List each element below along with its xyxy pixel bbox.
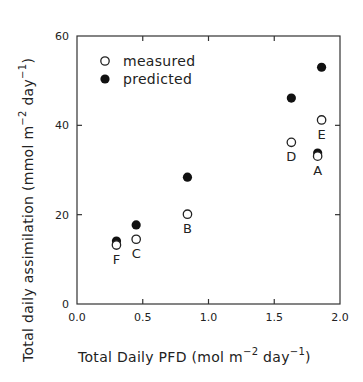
x-axis-title: Total Daily PFD (mol m−2 day−1): [77, 346, 311, 365]
point-measured-F: [112, 241, 120, 249]
y-tick-label: 0: [62, 298, 69, 311]
x-tick-label: 2.0: [331, 311, 349, 324]
x-axis-title-text: Total Daily PFD (mol m: [77, 349, 243, 365]
x-axis-title-end: ): [305, 349, 311, 365]
legend-label-measured: measured: [123, 53, 195, 69]
y-tick-label: 60: [55, 30, 69, 43]
y-axis-title-sup1: −2: [17, 110, 28, 125]
scatter-chart: 0.00.51.01.52.00204060 ABCDEF measured p…: [0, 0, 363, 382]
legend-marker-measured: [101, 57, 109, 65]
point-label-A: A: [313, 163, 322, 178]
point-label-D: D: [286, 149, 296, 164]
x-tick-label: 1.0: [200, 311, 218, 324]
x-axis-title-sup2: −1: [290, 346, 305, 357]
y-tick-label: 40: [55, 119, 69, 132]
point-label-B: B: [183, 221, 192, 236]
tick-labels: 0.00.51.01.52.00204060: [55, 30, 349, 324]
y-axis-title: Total daily assimilation (mmol m−2 day−1…: [17, 58, 36, 363]
x-tick-label: 1.5: [266, 311, 284, 324]
point-labels: ABCDEF: [113, 127, 326, 267]
point-label-E: E: [317, 127, 325, 142]
point-predicted-C: [132, 220, 141, 229]
x-tick-label: 0.0: [68, 311, 86, 324]
legend-label-predicted: predicted: [123, 71, 192, 87]
y-axis-title-mid: day: [20, 79, 36, 110]
x-axis-title-mid: day: [258, 349, 289, 365]
point-label-F: F: [113, 252, 120, 267]
point-measured-E: [317, 116, 325, 124]
point-label-C: C: [132, 246, 141, 261]
y-axis-title-end: ): [20, 58, 36, 64]
x-axis-title-sup1: −2: [243, 346, 258, 357]
y-tick-label: 20: [55, 209, 69, 222]
point-measured-A: [313, 152, 321, 160]
point-predicted-E: [317, 63, 326, 72]
point-predicted-B: [183, 173, 192, 182]
point-measured-B: [183, 210, 191, 218]
legend: measured predicted: [100, 53, 195, 87]
y-axis-title-text: Total daily assimilation (mmol m: [20, 126, 36, 363]
y-axis-title-sup2: −1: [17, 64, 28, 79]
point-measured-D: [287, 138, 295, 146]
point-predicted-D: [287, 93, 296, 102]
legend-marker-predicted: [100, 74, 109, 83]
point-measured-C: [132, 235, 140, 243]
x-tick-label: 0.5: [134, 311, 152, 324]
